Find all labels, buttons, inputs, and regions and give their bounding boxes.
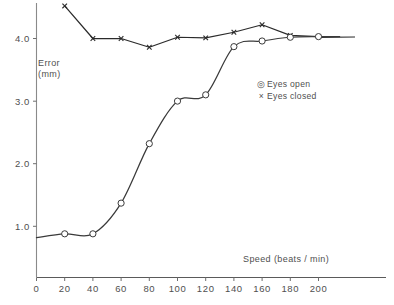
series-eyes-closed-line (65, 6, 319, 47)
series-eyes-open-markers (62, 34, 322, 237)
legend-label-eyes-open: Eyes open (267, 79, 310, 91)
plot-area (0, 0, 394, 305)
x-tick-label-20: 20 (53, 283, 77, 294)
chart-legend: ◎ Eyes open × Eyes closed (256, 79, 317, 102)
data-point-eyes-open (231, 44, 237, 50)
series-eyes-open-curve (37, 37, 340, 238)
x-tick-label-80: 80 (137, 283, 161, 294)
chart-figure: 4.0 3.0 2.0 1.0 0 20 40 60 80 100 120 14… (0, 0, 394, 305)
data-point-eyes-open (174, 98, 180, 104)
x-tick-label-160: 160 (249, 283, 275, 294)
data-point-eyes-open (259, 38, 265, 44)
data-point-eyes-closed (62, 4, 67, 9)
x-tick-label-60: 60 (109, 283, 133, 294)
x-tick-label-0: 0 (25, 283, 49, 294)
data-point-eyes-open (118, 200, 124, 206)
data-point-eyes-open (287, 34, 293, 40)
x-tick-label-180: 180 (277, 283, 303, 294)
x-tick-label-100: 100 (165, 283, 191, 294)
y-tick-label-1: 1.0 (6, 221, 30, 232)
x-tick-label-40: 40 (81, 283, 105, 294)
data-point-eyes-open (146, 141, 152, 147)
data-point-eyes-open (203, 92, 209, 98)
y-axis-title-line-1: Error (38, 58, 61, 69)
x-axis-title: Speed (beats / min) (243, 254, 329, 264)
y-tick-label-2: 2.0 (6, 158, 30, 169)
y-tick-label-4: 4.0 (6, 33, 30, 44)
y-axis-title-line-2: (mm) (38, 69, 61, 80)
series-eyes-closed-markers (62, 4, 320, 50)
data-point-eyes-open (62, 231, 68, 237)
legend-item-eyes-closed: × Eyes closed (256, 91, 317, 103)
data-point-eyes-open (90, 231, 96, 237)
y-tick-label-3: 3.0 (6, 96, 30, 107)
data-point-eyes-open (315, 34, 321, 40)
times-icon: × (256, 91, 267, 103)
x-tick-label-120: 120 (193, 283, 219, 294)
x-tick-label-200: 200 (306, 283, 332, 294)
x-tick-label-140: 140 (221, 283, 247, 294)
circle-dot-icon: ◎ (256, 79, 267, 91)
y-axis-title: Error (mm) (38, 58, 61, 80)
legend-item-eyes-open: ◎ Eyes open (256, 79, 317, 91)
legend-label-eyes-closed: Eyes closed (267, 91, 317, 103)
